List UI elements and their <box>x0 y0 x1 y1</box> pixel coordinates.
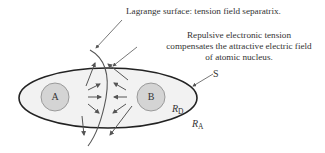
atom-a-label: A <box>45 91 65 102</box>
r-d-label: RD <box>172 103 184 116</box>
surface-pointer <box>193 74 213 86</box>
repulsive-annotation-line1: Repulsive electronic tension <box>160 30 318 41</box>
repulsive-annotation-line2: compensates the attractive electric fiel… <box>160 41 318 52</box>
repulsive-pointer <box>113 47 137 66</box>
r-a-subscript: A <box>198 122 203 131</box>
repulsive-tension-annotation: Repulsive electronic tension compensates… <box>160 30 318 63</box>
r-d-subscript: D <box>178 107 183 116</box>
repulsive-annotation-line3: of atomic nucleus. <box>160 52 318 63</box>
surface-label: S <box>213 68 219 79</box>
lagrange-pointer <box>96 20 122 48</box>
diagram-canvas <box>0 0 325 153</box>
lagrange-surface-annotation: Lagrange surface: tension field separatr… <box>126 6 281 16</box>
r-a-label: RA <box>192 118 204 131</box>
atom-b-label: B <box>141 91 161 102</box>
